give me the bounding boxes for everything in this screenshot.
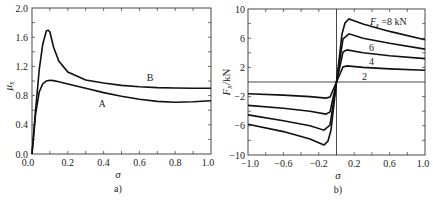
chart-a-ylabel: μx	[2, 81, 16, 92]
chart-b-xtick-3: 0.2	[348, 158, 361, 169]
curve-a	[32, 80, 211, 154]
chart-b: 10 6 2 −2 −6 −10 −1.0 −0.6 −0.2 0.2 0.6 …	[220, 4, 429, 197]
fz-4-label: 4	[369, 56, 374, 67]
chart-b-ytick-neg6: −6	[234, 120, 245, 131]
chart-b-xtick-1: −0.6	[274, 158, 292, 169]
chart-b-xlabel: σ	[335, 169, 341, 181]
curve-b-label: B	[147, 72, 154, 83]
chart-a-x-ticks	[50, 8, 193, 154]
chart-b-xtick-2: −0.2	[310, 158, 328, 169]
chart-b-ytick-6: 6	[240, 33, 245, 44]
chart-a-xtick-5: 1.0	[202, 157, 215, 168]
chart-b-xtick-0: −1.0	[241, 158, 259, 169]
chart-a-ytick-3: 1.2	[16, 61, 29, 72]
chart-a-xtick-0: 0.0	[22, 157, 35, 168]
figure: 0.0 0.4 0.8 1.2 1.6 2.0 0.0 0.2 0.4 0.6 …	[0, 0, 433, 203]
chart-a-ytick-1: 0.4	[16, 119, 29, 130]
chart-a-xtick-3: 0.6	[133, 157, 146, 168]
chart-a-xlabel: σ	[115, 168, 121, 180]
fz-2-label: 2	[362, 71, 367, 82]
panel-a-label: a)	[114, 183, 122, 195]
svg-text:Fx/kN: Fx/kN	[220, 69, 234, 97]
chart-a-ytick-4: 1.6	[16, 32, 29, 43]
fz-6-label: 6	[369, 42, 374, 53]
chart-b-ytick-10: 10	[235, 4, 245, 15]
chart-a-xtick-2: 0.4	[97, 157, 110, 168]
chart-b-xtick-5: 1.0	[417, 158, 430, 169]
chart-a: 0.0 0.4 0.8 1.2 1.6 2.0 0.0 0.2 0.4 0.6 …	[2, 3, 214, 196]
curve-a-label: A	[98, 98, 106, 109]
svg-text:μx: μx	[2, 81, 16, 92]
chart-a-ytick-2: 0.8	[16, 90, 29, 101]
panel-b-label: b)	[334, 184, 342, 196]
curve-b	[32, 30, 211, 154]
chart-a-ytick-5: 2.0	[16, 3, 29, 14]
chart-a-xtick-1: 0.2	[62, 157, 75, 168]
chart-a-xtick-4: 0.8	[169, 157, 182, 168]
chart-b-xtick-4: 0.6	[383, 158, 396, 169]
chart-b-ytick-2: 2	[240, 62, 245, 73]
chart-b-ylabel: Fx/kN	[220, 69, 234, 97]
chart-b-ytick-neg2: −2	[234, 91, 245, 102]
